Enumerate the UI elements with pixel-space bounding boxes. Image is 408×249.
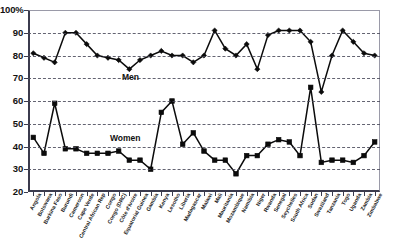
data-point-women-28 [330,158,335,163]
data-point-women-7 [106,151,111,156]
data-point-women-26 [308,85,313,90]
data-point-women-8 [116,149,121,154]
data-point-men-27 [319,89,324,94]
data-point-men-12 [159,48,164,53]
y-axis-tick-label: 60 [0,95,23,106]
data-point-women-0 [31,135,36,140]
literacy-line-chart: 100%9080706050403020 Men Women AngolaBot… [0,0,408,249]
y-axis-tick-mark [24,101,28,102]
series-label-men: Men [122,72,139,82]
data-point-women-5 [84,151,89,156]
gridline [28,56,380,57]
y-axis-tick-label: 80 [0,50,23,61]
gridline [28,78,380,79]
gridline [28,169,380,170]
y-axis-tick-mark [24,33,28,34]
y-axis-tick-label: 30 [0,163,23,174]
data-point-women-30 [351,160,356,165]
data-point-women-9 [127,158,132,163]
data-point-women-23 [276,137,281,142]
data-point-women-31 [362,153,367,158]
data-point-women-12 [159,110,164,115]
data-point-women-19 [234,172,239,177]
gridline [28,124,380,125]
y-axis-tick-mark [24,147,28,148]
data-point-women-32 [372,140,377,145]
data-point-women-21 [255,153,260,158]
data-point-women-25 [298,153,303,158]
y-axis-tick-mark [24,78,28,79]
y-axis-tick-mark [24,124,28,125]
series-label-women: Women [110,133,141,143]
data-point-women-17 [212,158,217,163]
data-point-women-20 [244,153,249,158]
gridline [28,33,380,34]
data-point-women-10 [138,158,143,163]
y-axis-tick-mark [24,169,28,170]
data-point-women-6 [95,151,100,156]
x-axis-label: Mali [213,192,223,204]
gridline [28,101,380,102]
data-point-women-29 [340,158,345,163]
data-point-women-18 [223,158,228,163]
data-point-women-1 [42,151,47,156]
data-point-women-15 [191,131,196,136]
series-line-men [33,30,374,91]
data-point-women-16 [202,149,207,154]
y-axis-tick-label: 90 [0,27,23,38]
y-axis-tick-mark [24,10,28,11]
data-point-women-24 [287,140,292,145]
y-axis-tick-label: 20 [0,186,23,197]
data-point-men-21 [255,67,260,72]
data-point-women-27 [319,160,324,165]
gridline [28,147,380,148]
y-axis-tick-label: 40 [0,141,23,152]
y-axis-tick-label: 50 [0,118,23,129]
y-axis-tick-label: 100% [0,4,23,15]
x-axis-labels: AngolaBotswanaBurkina FasoBurundiCameroo… [28,192,380,249]
y-axis-tick-label: 70 [0,72,23,83]
data-point-men-2 [52,60,57,65]
y-axis-tick-mark [24,56,28,57]
